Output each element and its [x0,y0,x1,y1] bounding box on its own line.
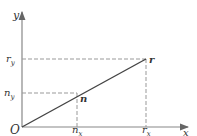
r-x-label: rx [142,124,151,136]
n-x-label: nx [72,124,82,136]
x-axis-label: x [183,127,189,136]
y-axis-label: y [12,9,20,22]
n-y-label: ny [4,87,15,101]
vector-n-label: n [80,93,87,104]
origin-label: O [10,123,20,136]
r-y-label: ry [6,53,16,67]
vector-diagram: y x O r n ry ny nx rx [0,0,197,136]
vector-r-label: r [149,54,155,65]
